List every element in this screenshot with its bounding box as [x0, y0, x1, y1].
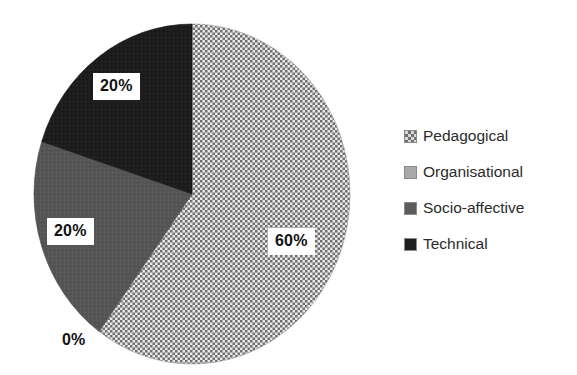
- legend-label-pedagogical: Pedagogical: [423, 128, 508, 144]
- data-label-organisational: 0%: [62, 332, 86, 348]
- chart-legend: Pedagogical Organisational Socio-affecti…: [404, 119, 574, 263]
- pie-chart-figure: 60% 20% 20% 0% Pedagogical Organisationa…: [0, 0, 577, 375]
- pie-chart-plot-area: 60% 20% 20% 0%: [0, 0, 390, 375]
- legend-item-technical[interactable]: Technical: [404, 227, 574, 261]
- organisational-swatch-icon: [404, 166, 417, 179]
- pie-chart-svg: [0, 0, 390, 375]
- legend-label-organisational: Organisational: [423, 164, 523, 180]
- data-label-pedagogical: 60%: [268, 228, 315, 255]
- socio-affective-swatch-icon: [404, 202, 417, 215]
- data-label-socio-affective: 20%: [47, 218, 94, 245]
- legend-label-socio-affective: Socio-affective: [423, 200, 524, 216]
- data-label-technical: 20%: [93, 73, 140, 100]
- legend-label-technical: Technical: [423, 236, 488, 252]
- legend-item-organisational[interactable]: Organisational: [404, 155, 574, 189]
- pedagogical-swatch-icon: [404, 130, 417, 143]
- technical-swatch-icon: [404, 238, 417, 251]
- legend-item-pedagogical[interactable]: Pedagogical: [404, 119, 574, 153]
- legend-item-socio-affective[interactable]: Socio-affective: [404, 191, 574, 225]
